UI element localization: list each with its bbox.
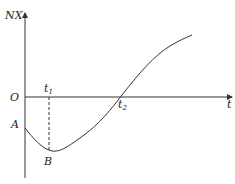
point-a-label: A: [10, 118, 19, 131]
point-b-label: B: [43, 155, 52, 168]
y-axis-label: NX: [4, 9, 24, 22]
x-axis-label: t: [227, 98, 232, 111]
t2-label: t2: [118, 98, 127, 112]
graph: NX t O A B t1 t2: [0, 0, 235, 184]
origin-label: O: [10, 91, 19, 104]
t1-label: t1: [44, 82, 53, 96]
